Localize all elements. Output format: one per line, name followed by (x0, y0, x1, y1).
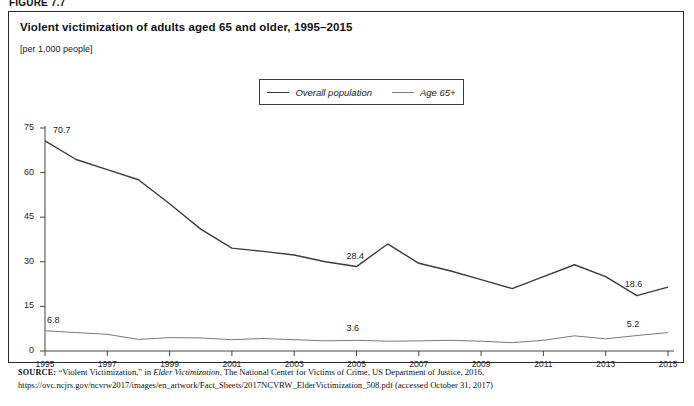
data-point-label: 3.6 (347, 323, 360, 333)
source-prefix: SOURCE: (18, 368, 56, 377)
y-axis-tick-label: 75 (8, 122, 34, 132)
figure-container: FIGURE 7.7 Violent victimization of adul… (0, 0, 694, 406)
chart-title: Violent victimization of adults aged 65 … (20, 21, 352, 33)
y-axis-tick-label: 60 (8, 167, 34, 177)
source-italic-title: Elder Victimization (153, 367, 219, 377)
data-point-label: 18.6 (625, 279, 643, 289)
source-note: SOURCE: “Violent Victimization,” in Elde… (18, 366, 678, 392)
y-axis-tick-label: 45 (8, 211, 34, 221)
source-text-part1: “Violent Victimization,” in (56, 367, 153, 377)
y-axis-tick-label: 30 (8, 256, 34, 266)
data-point-label: 70.7 (53, 125, 71, 135)
legend-line-swatch-overall (267, 92, 289, 93)
chart-legend: Overall population Age 65+ (259, 79, 464, 105)
chart-units-label: [per 1,000 people] (20, 44, 93, 54)
legend-label-age65: Age 65+ (420, 87, 456, 98)
y-axis-tick-label: 0 (8, 345, 34, 355)
data-point-label: 6.8 (47, 315, 60, 325)
legend-item-age-65-plus: Age 65+ (392, 87, 456, 98)
data-point-label: 28.4 (347, 251, 365, 261)
legend-label-overall: Overall population (295, 87, 372, 98)
y-axis-tick-label: 15 (8, 300, 34, 310)
figure-label: FIGURE 7.7 (9, 0, 65, 8)
legend-line-swatch-age65 (392, 92, 414, 93)
figure-border (8, 11, 684, 363)
data-point-label: 5.2 (627, 319, 640, 329)
legend-item-overall-population: Overall population (267, 87, 372, 98)
